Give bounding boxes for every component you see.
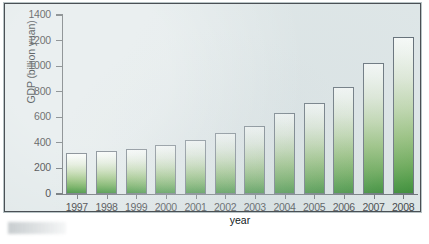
x-tick [344, 194, 345, 199]
y-tick-label: 1200 [9, 34, 51, 46]
y-tick-label: 1400 [9, 8, 51, 20]
bar-2002 [215, 133, 236, 194]
x-tick [107, 194, 108, 199]
bar-1999 [126, 149, 147, 194]
bar-2000 [155, 145, 176, 194]
x-tick [374, 194, 375, 199]
x-tick [136, 194, 137, 199]
caption-smudge [8, 222, 66, 234]
bar-1998 [96, 151, 117, 194]
y-tick-label: 600 [9, 110, 51, 122]
bar-2003 [244, 126, 265, 194]
x-tick [166, 194, 167, 199]
x-tick [403, 194, 404, 199]
x-tick [255, 194, 256, 199]
x-axis-line [62, 194, 418, 195]
bar-2006 [333, 87, 354, 194]
y-tick-label: 400 [9, 136, 51, 148]
y-tick-label: 200 [9, 161, 51, 173]
chart-figure: GDP (billion yuan) 020040060080010001200… [0, 0, 429, 244]
x-tick-label: 2008 [383, 201, 423, 213]
x-axis-title: year [62, 214, 418, 226]
bar-2005 [304, 103, 325, 194]
x-tick [196, 194, 197, 199]
x-tick [285, 194, 286, 199]
x-tick [77, 194, 78, 199]
bar-1997 [66, 153, 87, 194]
bar-2004 [274, 113, 295, 194]
chart-frame: GDP (billion yuan) 020040060080010001200… [4, 3, 421, 212]
bar-2008 [393, 37, 414, 194]
plot-area [62, 15, 417, 194]
y-tick-label: 1000 [9, 59, 51, 71]
x-tick [314, 194, 315, 199]
y-tick-label: 0 [9, 187, 51, 199]
bar-2001 [185, 140, 206, 194]
y-tick-label: 800 [9, 85, 51, 97]
x-tick [225, 194, 226, 199]
bar-2007 [363, 63, 384, 194]
